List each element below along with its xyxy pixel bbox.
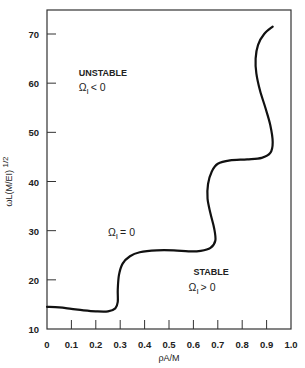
x-tick-label: 1.0 [284,339,297,350]
x-tick-label: 0 [44,339,49,350]
condition-label: ΩI< 0 [79,81,106,96]
relation: > 0 [201,281,216,293]
y-tick-label: 40 [28,177,39,188]
y-axis-title: ωL(M/EI) 1/2 [1,156,14,207]
x-tick-label: 0.4 [138,339,152,350]
condition-label: ΩI> 0 [189,281,216,296]
subscript: I [196,287,198,296]
condition-label: ΩI= 0 [108,226,135,241]
relation: = 0 [120,226,135,238]
y-axis-title-superscript: 1/2 [1,156,10,168]
plot-border [47,10,291,329]
x-tick-label: 0.8 [236,339,249,350]
y-tick-label: 60 [28,78,39,89]
y-tick-label: 30 [28,226,39,237]
omega-symbol: Ω [79,81,87,93]
subscript: I [116,232,118,241]
chart: 00.10.20.30.40.50.60.70.80.91.0 10203040… [0,0,305,368]
subscript: I [87,87,89,96]
x-tick-label: 0.1 [65,339,79,350]
x-tick-label: 0.9 [260,339,273,350]
region-label: STABLE [193,267,228,277]
x-tick-label: 0.2 [89,339,102,350]
y-tick-label: 20 [28,275,39,286]
omega-symbol: Ω [108,226,116,238]
x-tick-label: 0.5 [162,339,176,350]
x-tick-label: 0.6 [187,339,200,350]
annotations: UNSTABLEΩI< 0ΩI= 0STABLEΩI> 0 [79,68,229,296]
region-label: UNSTABLE [79,68,127,78]
x-axis-title: ρA/M [158,353,179,363]
x-tick-label: 0.7 [211,339,224,350]
relation: < 0 [91,81,106,93]
x-axis: 00.10.20.30.40.50.60.70.80.91.0 [44,320,297,350]
plot-frame [47,10,291,329]
y-axis: 10203040506070 [28,29,56,335]
x-tick-label: 0.3 [114,339,127,350]
y-tick-label: 70 [28,29,39,40]
y-tick-label: 50 [28,127,39,138]
omega-symbol: Ω [189,281,197,293]
y-axis-title-main: ωL(M/EI) [4,170,14,207]
y-tick-label: 10 [28,324,39,335]
